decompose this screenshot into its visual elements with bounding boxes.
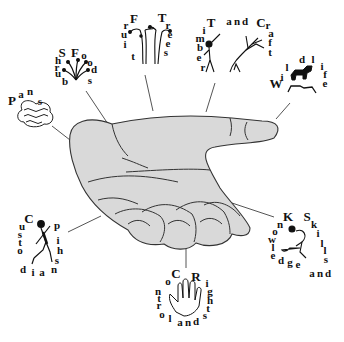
node-label-letter: i — [316, 228, 319, 239]
node-label-letter: C — [256, 16, 265, 29]
person-tree-icon — [204, 34, 264, 72]
node-label-letter: e — [296, 259, 301, 270]
node-label-letter: S — [303, 210, 310, 223]
node-label-letter: d — [278, 255, 284, 266]
node-label-letter: u — [55, 68, 61, 79]
node-label-letter: s — [55, 255, 59, 266]
node-label-letter: s — [88, 75, 92, 86]
node-label-letter: t — [268, 47, 272, 58]
node-label-letter: o — [17, 245, 23, 256]
node-label-letter: s — [164, 47, 168, 58]
node-label-letter: s — [38, 96, 42, 107]
node-label-letter: n — [185, 317, 191, 328]
node-label-letter: a — [309, 268, 315, 279]
node-label-letter: t — [131, 51, 135, 62]
node-label-letter: R — [191, 270, 200, 283]
node-label-letter: p — [54, 220, 60, 231]
node-label-letter: o — [165, 276, 171, 287]
node-label-letter: e — [323, 78, 328, 89]
node-label-letter: a — [226, 16, 232, 27]
node-label-letter: o — [159, 309, 165, 320]
node-label-letter: F — [130, 12, 138, 25]
node-label-letter: d — [193, 316, 199, 327]
node-label-letter: n — [234, 16, 240, 27]
node-label-letter: a — [177, 317, 183, 328]
node-label-letter: i — [280, 72, 283, 83]
node-label-letter: b — [62, 76, 68, 87]
animals-icon — [288, 66, 316, 93]
node-label-letter: e — [271, 250, 276, 261]
node-label-letter: n — [27, 86, 33, 97]
node-label-letter: i — [123, 39, 126, 50]
hand-icon — [70, 116, 278, 249]
node-label-letter: i — [56, 235, 59, 246]
node-label-letter: K — [283, 210, 293, 223]
custodian-person-icon — [32, 221, 52, 264]
node-label-letter: C — [24, 212, 33, 225]
node-label-letter: a — [39, 267, 45, 278]
node-label-letter: i — [31, 267, 34, 278]
node-label-letter: a — [18, 89, 24, 100]
node-label-letter: g — [287, 257, 293, 268]
node-label-letter: T — [207, 16, 216, 29]
cloud-water-icon — [18, 101, 53, 127]
diagram-stage: PansShrubFoodsFruitTreesTimberandCraftWi… — [0, 0, 344, 342]
node-label-letter: i — [205, 278, 208, 289]
diagram-graphics — [0, 0, 344, 342]
hand-small-icon — [169, 279, 201, 316]
node-label-letter: l — [311, 54, 314, 65]
node-label-letter: n — [317, 268, 323, 279]
node-label-letter: F — [71, 46, 79, 59]
node-label-letter: C — [171, 267, 180, 280]
node-label-letter: s — [324, 254, 328, 265]
node-label-letter: l — [168, 313, 171, 324]
node-label-letter: P — [8, 94, 16, 107]
node-label-letter: d — [20, 264, 26, 275]
node-label-letter: d — [299, 54, 305, 65]
node-label-letter: h — [57, 245, 63, 256]
node-label-letter: d — [242, 16, 248, 27]
node-label-letter: r — [201, 62, 206, 73]
node-label-letter: o — [81, 50, 87, 61]
person-weaving-icon — [282, 226, 306, 258]
node-label-letter: d — [325, 268, 331, 279]
node-label-letter: l — [285, 62, 288, 73]
